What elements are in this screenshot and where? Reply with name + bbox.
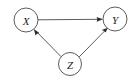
- edge-z-to-x: [34, 29, 61, 57]
- node-y[interactable]: Y: [103, 7, 127, 31]
- edge-group: [34, 17, 108, 57]
- edge-z-to-y-line: [79, 30, 105, 57]
- edge-x-to-y: [38, 17, 103, 22]
- node-x-label: X: [22, 15, 31, 27]
- edge-x-to-y-arrowhead: [97, 17, 103, 22]
- edge-z-to-x-line: [36, 31, 61, 56]
- edge-z-to-x-arrowhead: [34, 29, 40, 36]
- node-z-label: Z: [67, 59, 74, 71]
- node-group: X Y Z: [14, 7, 127, 76]
- dag-figure: X Y Z: [0, 0, 139, 82]
- edge-z-to-y: [79, 28, 108, 57]
- node-x[interactable]: X: [14, 8, 38, 32]
- dag-canvas: X Y Z: [0, 0, 139, 82]
- node-z[interactable]: Z: [59, 53, 82, 76]
- edge-x-to-y-line: [38, 19, 100, 20]
